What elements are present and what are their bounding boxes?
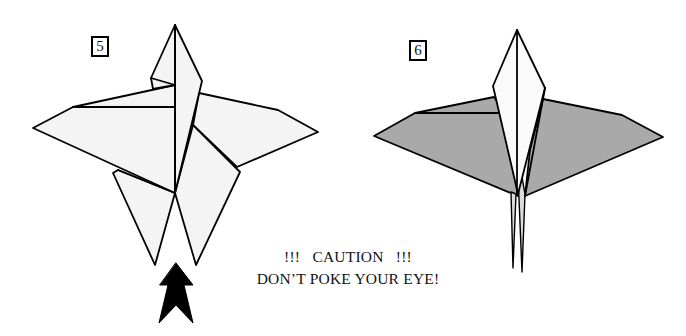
fig5-left-wing [33,85,175,193]
caution-heading: !!! CAUTION !!! [238,246,458,268]
step-6-label: 6 [409,40,427,61]
step-5-label: 5 [91,36,109,57]
push-up-arrow-icon [159,263,193,323]
caution-note: !!! CAUTION !!! DON’T POKE YOUR EYE! [238,246,458,290]
fig6-left-wing [374,97,518,196]
origami-instructions: 5 6 !!! CAUTION !!! DON’T POKE YOUR EYE! [0,0,686,336]
fig6-right-wing [525,99,663,196]
figure-6 [374,30,663,272]
caution-warning-text: DON’T POKE YOUR EYE! [238,268,458,290]
fig6-left-leg [511,192,516,268]
